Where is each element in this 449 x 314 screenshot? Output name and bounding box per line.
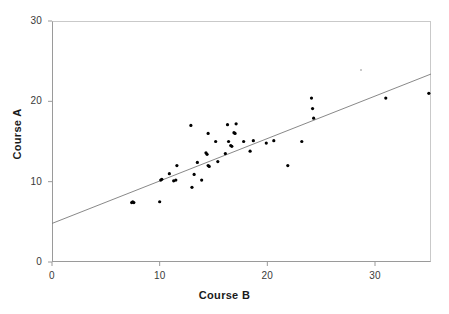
- x-tick-label: 10: [145, 271, 175, 281]
- y-tick-label: 30: [12, 16, 42, 26]
- x-tick-label: 20: [252, 271, 282, 281]
- y-tick-label: 0: [12, 257, 42, 267]
- x-axis-tick-marks: [52, 262, 375, 266]
- x-axis-title: Course B: [0, 289, 449, 301]
- scatter-chart: 0102030 0102030 Course B Course A: [0, 0, 449, 314]
- x-tick-label: 0: [37, 271, 67, 281]
- plot-area: [52, 21, 431, 262]
- y-axis-title: Course A: [11, 79, 23, 189]
- x-tick-label: 30: [360, 271, 390, 281]
